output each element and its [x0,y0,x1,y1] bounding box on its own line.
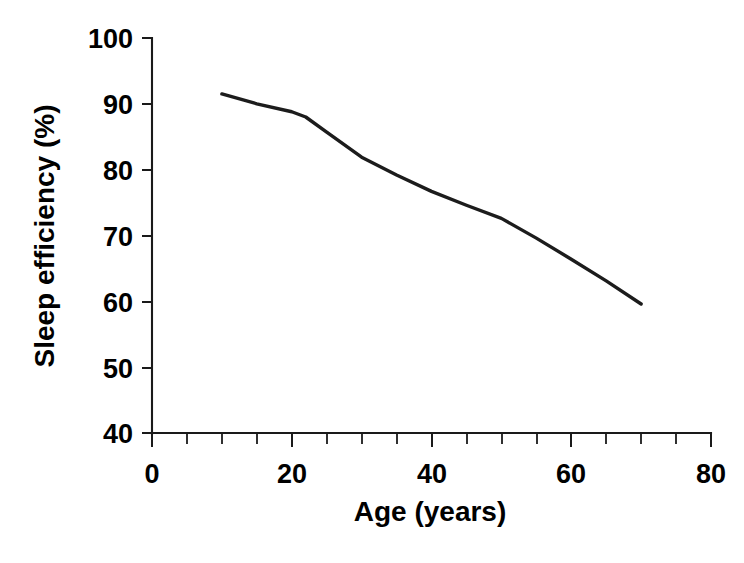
chart-background [0,0,744,563]
x-tick-label-80: 80 [696,459,726,489]
line-chart: 100 90 80 70 60 50 40 0 20 40 60 80 Age … [0,0,744,563]
x-tick-label-20: 20 [277,459,307,489]
y-tick-label-70: 70 [103,222,133,252]
x-axis-title: Age (years) [354,496,507,527]
y-tick-label-90: 90 [103,90,133,120]
y-tick-label-40: 40 [103,419,133,449]
y-tick-label-50: 50 [103,354,133,384]
chart-figure: 100 90 80 70 60 50 40 0 20 40 60 80 Age … [0,0,744,563]
y-tick-label-100: 100 [88,24,133,54]
x-tick-label-0: 0 [144,459,159,489]
x-tick-label-60: 60 [556,459,586,489]
y-tick-label-60: 60 [103,288,133,318]
x-tick-label-40: 40 [417,459,447,489]
y-axis-title: Sleep efficiency (%) [29,105,60,368]
y-tick-label-80: 80 [103,156,133,186]
